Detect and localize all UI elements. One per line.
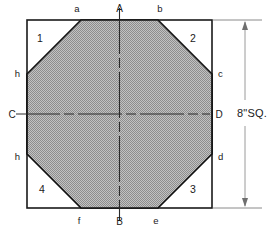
axis-label-b-bottom: B [116, 216, 123, 227]
figure-canvas: 8"SQ. a b c d e f h h A B C D 1 2 3 4 [0, 0, 277, 235]
dimension-arrow-down-icon [242, 198, 248, 207]
vertex-label-c: c [218, 68, 223, 79]
vertex-label-h: h [15, 68, 20, 79]
dimension-label: 8"SQ. [237, 107, 267, 119]
axis-label-c-left: C [8, 109, 15, 120]
axis-label-a-top: A [116, 3, 123, 14]
vertex-label-b: b [157, 3, 162, 14]
vertex-label-e: e [153, 215, 158, 226]
corner-label-3: 3 [190, 183, 196, 195]
vertex-label-f: f [78, 215, 81, 226]
vertex-label-d: d [218, 151, 223, 162]
vertex-label-a: a [74, 3, 80, 14]
axis-label-d-right: D [215, 109, 222, 120]
corner-label-4: 4 [39, 183, 45, 195]
corner-label-2: 2 [190, 32, 196, 44]
vertex-label-g: h [15, 151, 20, 162]
corner-label-1: 1 [37, 32, 43, 44]
dimension-arrow-up-icon [242, 21, 248, 30]
octagon-diagram: 8"SQ. a b c d e f h h A B C D 1 2 3 4 [0, 0, 277, 235]
